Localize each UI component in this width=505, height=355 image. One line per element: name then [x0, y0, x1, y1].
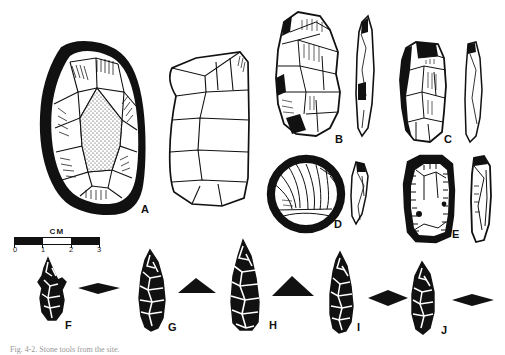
specimen-d-profile-view: [351, 162, 368, 224]
specimen-g-face-view: [139, 250, 165, 331]
specimen-label-a: A: [141, 204, 149, 215]
scale-tick-3: 3: [97, 246, 101, 254]
specimen-j-face-view: [412, 262, 434, 334]
specimen-label-b: B: [335, 134, 343, 145]
specimen-label-j: J: [441, 325, 447, 336]
scale-tick-2: 2: [69, 246, 73, 254]
specimen-b-profile-view: [356, 16, 374, 136]
specimen-label-i: I: [357, 322, 360, 333]
specimen-a-face-view: [41, 42, 144, 213]
specimen-f-face-view: [38, 258, 66, 320]
specimen-h-cross-section: [272, 276, 314, 296]
specimen-d-face-view: [268, 156, 344, 232]
specimen-j-cross-section: [452, 294, 494, 306]
scale-tick-1: 1: [41, 246, 45, 254]
figure-plate: A: [0, 0, 505, 355]
specimen-f-cross-section: [78, 283, 120, 294]
scale-unit-label: CM: [14, 227, 100, 236]
scale-tick-labels: 0 1 2 3: [14, 245, 100, 256]
specimen-label-d: D: [334, 219, 342, 230]
scale-bar-graphic: [14, 237, 100, 245]
specimen-h-face-view: [231, 240, 259, 330]
specimen-g-cross-section: [178, 278, 216, 293]
figure-caption: Fig. 4-2. Stone tools from the site.: [10, 345, 120, 355]
lithic-illustration: A: [0, 0, 505, 355]
specimen-i-cross-section: [368, 290, 408, 306]
specimen-label-g: G: [168, 322, 177, 333]
specimen-label-h: H: [269, 320, 277, 331]
specimen-e-profile-view: [471, 156, 491, 242]
specimen-label-e: E: [452, 229, 460, 240]
scale-tick-0: 0: [13, 246, 17, 254]
specimen-c-profile-view: [465, 42, 482, 142]
specimen-label-f: F: [65, 320, 72, 331]
specimen-b-face-view: [276, 12, 340, 136]
scale-bar: CM 0 1 2 3: [14, 227, 100, 256]
scale-segment: [15, 238, 43, 244]
specimen-label-c: C: [444, 134, 452, 145]
specimen-a-profile-view: [170, 52, 249, 206]
scale-segment: [72, 238, 99, 244]
specimen-i-face-view: [330, 252, 353, 333]
specimen-c-face-view: [400, 42, 446, 142]
specimen-e-face-view: [404, 156, 454, 242]
scale-segment: [43, 238, 71, 244]
